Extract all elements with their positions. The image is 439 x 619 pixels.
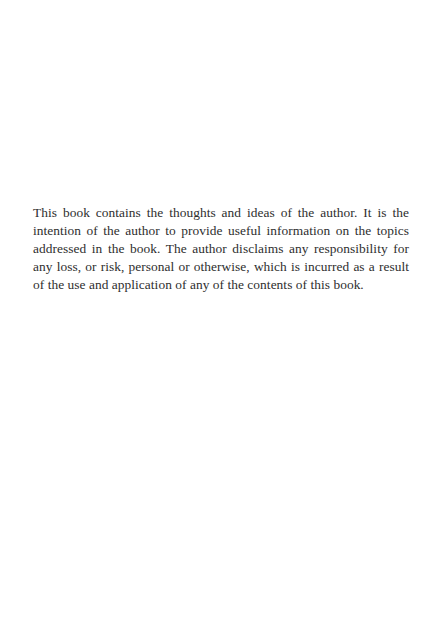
- disclaimer-paragraph: This book contains the thoughts and idea…: [33, 204, 409, 294]
- disclaimer-line-1: This book contains the thoughts and idea…: [33, 204, 409, 222]
- disclaimer-line-3: addressed in the book. The author discla…: [33, 240, 409, 258]
- book-page: This book contains the thoughts and idea…: [0, 0, 439, 619]
- disclaimer-line-4: any loss, or risk, personal or otherwise…: [33, 258, 409, 276]
- disclaimer-line-5: of the use and application of any of the…: [33, 276, 409, 294]
- disclaimer-line-2: intention of the author to provide usefu…: [33, 222, 409, 240]
